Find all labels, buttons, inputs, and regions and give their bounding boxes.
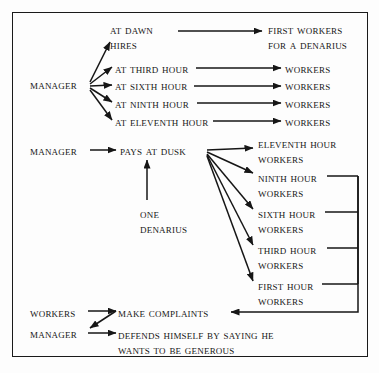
node-at-sixth-hour: At Sixth Hour xyxy=(115,79,187,94)
node-label: At Sixth Hour xyxy=(115,79,187,94)
node-pays-at-dusk: Pays At Dusk xyxy=(120,144,186,159)
node-label-secondary: Workers xyxy=(258,257,316,272)
node-workers-eleventh: Workers xyxy=(285,115,330,130)
node-label: Make complaints xyxy=(118,306,208,321)
node-at-dawn-hires: At DawnHires xyxy=(110,22,153,52)
node-sixth-hour-workers: Sixth HourWorkers xyxy=(258,206,315,236)
node-label: At Dawn xyxy=(110,22,153,37)
node-label: At Ninth Hour xyxy=(115,97,189,112)
node-label-secondary: Hires xyxy=(110,37,153,52)
node-label: Workers xyxy=(285,97,330,112)
node-label: Manager xyxy=(30,144,77,159)
node-workers-sixth: Workers xyxy=(285,79,330,94)
node-label-secondary: Denarius xyxy=(140,221,187,236)
node-label: One xyxy=(140,206,187,221)
node-label-secondary: Workers xyxy=(258,151,336,166)
node-manager-pays: Manager xyxy=(30,144,77,159)
node-manager-hires: Manager xyxy=(30,78,77,93)
node-one-denarius: OneDenarius xyxy=(140,206,187,236)
node-label: At Third Hour xyxy=(115,62,188,77)
node-workers-ninth: Workers xyxy=(285,97,330,112)
node-label: Eleventh Hour xyxy=(258,136,336,151)
node-at-third-hour: At Third Hour xyxy=(115,62,188,77)
node-label-secondary: Workers xyxy=(258,221,315,236)
node-label: Pays At Dusk xyxy=(120,144,186,159)
node-label: Ninth Hour xyxy=(258,170,317,185)
node-label: Manager xyxy=(30,78,77,93)
node-manager-defends: Manager xyxy=(30,327,77,342)
node-label-secondary: For a Denarius xyxy=(268,37,347,52)
node-label: First Workers xyxy=(268,22,347,37)
diagram-page: At DawnHiresFirst WorkersFor a DenariusM… xyxy=(0,0,379,373)
node-label-secondary: Wants To Be Generous xyxy=(118,342,274,357)
node-eleventh-hour-workers: Eleventh HourWorkers xyxy=(258,136,336,166)
node-workers-complain: Workers xyxy=(30,306,75,321)
node-make-complaints: Make complaints xyxy=(118,306,208,321)
node-label: Workers xyxy=(285,79,330,94)
node-defends-himself: Defends Himself By Saying HeWants To Be … xyxy=(118,327,274,357)
node-label-secondary: Workers xyxy=(258,293,313,308)
node-third-hour-workers: Third HourWorkers xyxy=(258,242,316,272)
node-label: Third Hour xyxy=(258,242,316,257)
node-first-workers: First WorkersFor a Denarius xyxy=(268,22,347,52)
node-label: At Eleventh Hour xyxy=(115,115,208,130)
node-at-ninth-hour: At Ninth Hour xyxy=(115,97,189,112)
node-label: Workers xyxy=(285,115,330,130)
node-label-secondary: Workers xyxy=(258,185,317,200)
node-workers-third: Workers xyxy=(285,62,330,77)
node-label: Manager xyxy=(30,327,77,342)
node-label: First Hour xyxy=(258,278,313,293)
node-at-eleventh-hour: At Eleventh Hour xyxy=(115,115,208,130)
node-label: Workers xyxy=(30,306,75,321)
node-label: Defends Himself By Saying He xyxy=(118,327,274,342)
node-first-hour-workers: First HourWorkers xyxy=(258,278,313,308)
node-ninth-hour-workers: Ninth HourWorkers xyxy=(258,170,317,200)
node-label: Workers xyxy=(285,62,330,77)
node-label: Sixth Hour xyxy=(258,206,315,221)
